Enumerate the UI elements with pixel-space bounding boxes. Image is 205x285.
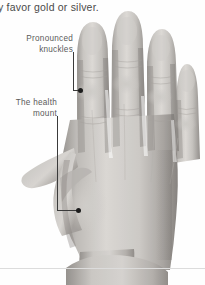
callout-line-2: knuckles	[18, 44, 73, 55]
callout-line-1: The health	[16, 98, 57, 107]
callout-line-2: mount	[10, 108, 57, 119]
leader-dot-mount	[76, 208, 81, 213]
callout-health-mount: The health mount	[10, 97, 57, 119]
leader-line-mount-horizontal	[57, 210, 77, 211]
figure-page: y favor gold or silver. Pronounced knuck…	[0, 0, 205, 285]
page-rule	[0, 268, 205, 269]
callout-pronounced-knuckles: Pronounced knuckles	[18, 33, 73, 55]
leader-line-mount-vertical	[57, 116, 58, 210]
running-text: y favor gold or silver.	[0, 1, 99, 13]
leader-line-knuckles-vertical	[73, 52, 74, 90]
callout-line-1: Pronounced	[26, 34, 73, 43]
leader-dot-knuckles	[78, 88, 83, 93]
